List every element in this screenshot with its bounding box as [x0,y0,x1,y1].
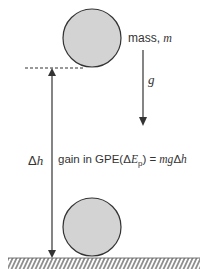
gpe-h: h [181,153,187,165]
gpe-equals: ) = [142,153,159,165]
ball-top [63,9,121,67]
gpe-mg: mg [159,153,173,165]
ball-bottom [63,198,121,256]
gravity-label: g [148,72,155,88]
h-symbol: h [37,153,44,168]
gpe-prefix: gain in GPE(Δ [58,153,131,165]
gpe-formula-label: gain in GPE(ΔEp) = mgΔh [58,153,187,168]
gpe-E: E [131,153,138,165]
mass-label-text: mass, [128,31,163,45]
diagram-graphics [0,0,210,278]
delta-symbol: Δ [28,153,37,168]
height-arrow-head-up [48,68,56,76]
mass-label: mass, m [128,31,172,46]
gpe-delta: Δ [173,153,181,165]
height-arrow-head-down [48,250,56,258]
delta-h-label: Δh [28,153,43,169]
mass-symbol: m [163,31,172,45]
gravity-arrow-head [139,117,147,126]
gpe-diagram: mass, m g Δh gain in GPE(ΔEp) = mgΔh [0,0,210,278]
ground-hatching [8,258,200,269]
